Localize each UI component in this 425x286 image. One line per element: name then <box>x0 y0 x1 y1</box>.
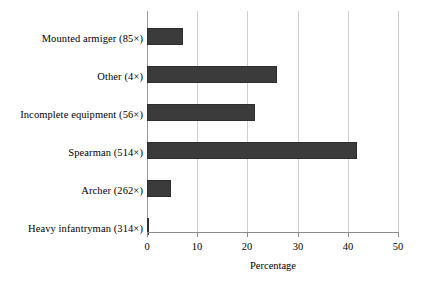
x-tick-40 <box>348 232 349 237</box>
gridline-30 <box>298 11 299 232</box>
x-ticklabel-30: 30 <box>278 240 318 253</box>
gridline-40 <box>348 11 349 232</box>
x-tick-50 <box>398 232 399 237</box>
x-tick-0 <box>147 232 148 237</box>
x-axis-title: Percentage <box>147 259 399 272</box>
plot-area <box>147 11 398 232</box>
x-axis-line <box>147 232 399 233</box>
x-tick-10 <box>197 232 198 237</box>
x-ticklabel-50: 50 <box>378 240 418 253</box>
bar-spearman <box>147 142 357 159</box>
x-tick-30 <box>298 232 299 237</box>
category-label-heavy-infantryman: Heavy infantryman (314×) <box>0 223 143 235</box>
gridline-20 <box>247 11 248 232</box>
x-tick-20 <box>247 232 248 237</box>
category-label-mounted-armiger: Mounted armiger (85×) <box>0 33 143 45</box>
category-label-other: Other (4×) <box>0 71 143 83</box>
x-ticklabel-0: 0 <box>127 240 167 253</box>
bar-other <box>147 66 277 83</box>
category-label-spearman: Spearman (514×) <box>0 147 143 159</box>
x-ticklabel-20: 20 <box>227 240 267 253</box>
bar-chart: Mounted armiger (85×) Other (4×) Incompl… <box>0 0 425 286</box>
bar-mounted-armiger <box>147 28 183 45</box>
x-ticklabel-10: 10 <box>177 240 217 253</box>
bar-incomplete-equipment <box>147 104 255 121</box>
category-label-incomplete-equipment: Incomplete equipment (56×) <box>0 109 143 121</box>
category-axis-labels: Mounted armiger (85×) Other (4×) Incompl… <box>0 11 143 232</box>
x-ticklabel-40: 40 <box>328 240 368 253</box>
gridline-10 <box>197 11 198 232</box>
category-label-archer: Archer (262×) <box>0 185 143 197</box>
gridline-50 <box>398 11 399 232</box>
bar-archer <box>147 180 171 197</box>
